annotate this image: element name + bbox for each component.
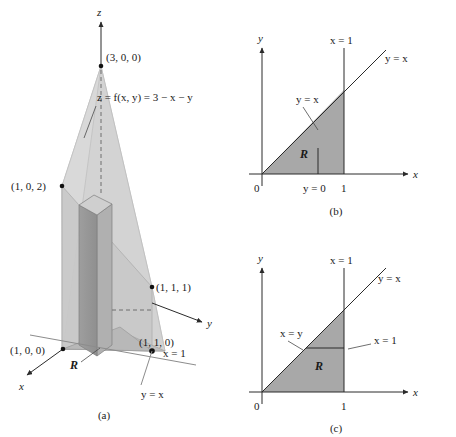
panel-b: x y y = x x = 1 y = x R 0 y = 0 1 (b) <box>249 32 418 218</box>
label-horizontal-inner-c: x = 1 <box>374 334 397 346</box>
axis-label-y-b: y <box>257 32 263 44</box>
tick-origin-c: 0 <box>254 400 260 412</box>
label-diagonal-outer-b: y = x <box>385 52 408 64</box>
tick-one-c: 1 <box>341 400 347 412</box>
horizontal-inner-leader-c <box>348 344 371 349</box>
panel-c: x y y = x x = 1 x = y x = 1 R 0 1 (c) <box>249 252 418 435</box>
caption-panel-b: (b) <box>330 205 343 218</box>
axis-label-x: x <box>18 380 24 392</box>
label-surface-equation: z = f(x, y) = 3 − x − y <box>97 91 193 104</box>
point-marker-111 <box>150 285 155 290</box>
label-region-R-b: R <box>299 147 308 161</box>
diagonal-inner-leader-c <box>288 341 303 350</box>
axis-label-y-c: y <box>257 252 263 264</box>
tick-one-b: 1 <box>341 182 347 194</box>
label-point-102: (1, 0, 2) <box>11 180 46 193</box>
axis-label-y: y <box>206 317 212 329</box>
label-line-yx: y = x <box>141 388 164 400</box>
y-axis <box>152 303 202 322</box>
caption-panel-a: (a) <box>98 409 111 422</box>
label-point-300: (3, 0, 0) <box>106 51 141 64</box>
label-point-111: (1, 1, 1) <box>156 281 191 294</box>
axis-label-z: z <box>96 6 102 18</box>
label-plane-x1: x = 1 <box>163 347 186 359</box>
panel-a: z (3, 0, 0) z = f(x, y) = 3 − x − y (1, … <box>10 6 212 422</box>
point-marker-300 <box>99 64 104 69</box>
label-vertical-line-c: x = 1 <box>330 254 353 266</box>
label-diagonal-inner-b: y = x <box>296 93 319 105</box>
label-diagonal-inner-c: x = y <box>280 327 303 339</box>
label-point-100: (1, 0, 0) <box>10 344 45 357</box>
label-diagonal-outer-c: y = x <box>378 272 401 284</box>
point-marker-102 <box>60 184 65 189</box>
axis-label-x-b: x <box>412 168 418 180</box>
tick-inner-b: y = 0 <box>303 182 326 194</box>
label-region-R-a: R <box>69 358 78 372</box>
math-figure-svg: z (3, 0, 0) z = f(x, y) = 3 − x − y (1, … <box>0 0 456 437</box>
prism-right-face <box>97 204 112 356</box>
figure-root: z (3, 0, 0) z = f(x, y) = 3 − x − y (1, … <box>0 0 456 437</box>
tick-origin-b: 0 <box>254 182 260 194</box>
axis-label-x-c: x <box>412 386 418 398</box>
label-vertical-line-b: x = 1 <box>330 34 353 46</box>
prism-left-face <box>79 205 97 356</box>
point-marker-100 <box>61 347 66 352</box>
caption-panel-c: (c) <box>330 422 343 435</box>
label-region-R-c: R <box>314 359 323 373</box>
